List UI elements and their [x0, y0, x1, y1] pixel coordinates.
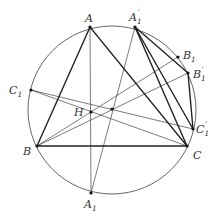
point-C1 — [29, 88, 32, 91]
label-C1prime: C1′ — [196, 120, 209, 138]
line-A-A1 — [90, 27, 91, 193]
point-B — [35, 144, 38, 147]
point-B1 — [176, 55, 179, 58]
point-labels: A A1′ B1 B1′ C1 H C1′ B C A1 — [9, 8, 209, 213]
point-A — [88, 25, 91, 28]
point-A1 — [89, 191, 92, 194]
triangle-A1p-B1p-C1p — [135, 27, 193, 129]
geometry-figure: A A1′ B1 B1′ C1 H C1′ B C A1 — [0, 0, 221, 218]
label-C1: C1 — [9, 84, 22, 99]
point-C — [185, 144, 188, 147]
thick-lines — [37, 27, 193, 146]
diagram-canvas: A A1′ B1 B1′ C1 H C1′ B C A1 — [0, 0, 221, 218]
point-intersection — [110, 107, 113, 110]
points — [29, 25, 194, 194]
label-C: C — [193, 149, 202, 162]
label-B1prime: B1′ — [192, 65, 206, 83]
label-A1: A1 — [83, 198, 97, 213]
point-H — [89, 110, 92, 113]
line-A1prime-C — [135, 27, 187, 146]
label-A: A — [84, 12, 93, 25]
label-H: H — [73, 106, 84, 119]
point-B1prime — [186, 71, 189, 74]
label-B: B — [22, 145, 31, 158]
point-C1prime — [191, 127, 194, 130]
label-A1prime: A1′ — [128, 8, 142, 26]
line-B-B1 — [37, 57, 178, 146]
label-B1: B1 — [182, 49, 196, 64]
